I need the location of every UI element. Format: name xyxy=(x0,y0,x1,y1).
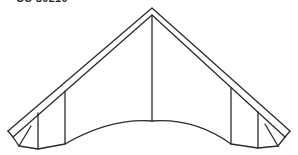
pediment-diagram xyxy=(0,0,298,155)
inner-roof-outline xyxy=(13,15,285,137)
outer-roof-outline xyxy=(8,8,290,131)
curved-base xyxy=(19,121,278,149)
corner-fascia xyxy=(13,124,285,146)
roof-end-caps xyxy=(8,131,290,137)
